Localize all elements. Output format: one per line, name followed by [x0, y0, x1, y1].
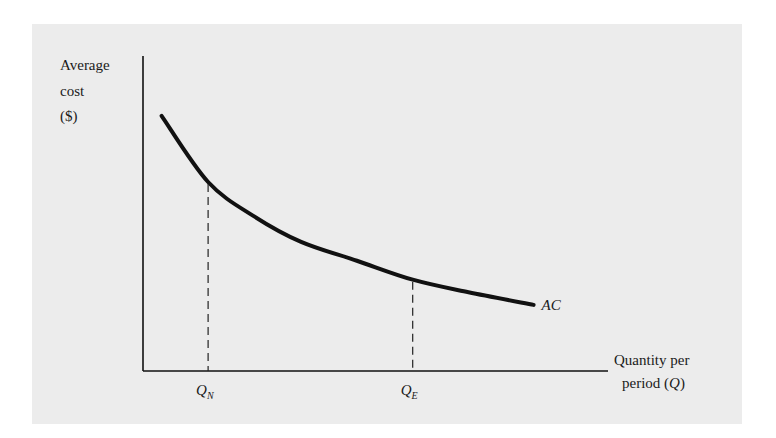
y-axis-label-line-1: Average: [60, 57, 110, 73]
q-e-label: QE: [401, 382, 418, 401]
y-axis-label-line-2: cost: [60, 83, 85, 99]
x-axis-label-line-1: Quantity per: [614, 352, 689, 368]
ac-curve-label: AC: [541, 297, 562, 313]
q-n-label: QN: [196, 382, 215, 401]
y-axis-label-line-3: ($): [60, 108, 78, 125]
x-axis-label-line-2: period (Q): [622, 375, 685, 392]
ac-curve: [162, 116, 534, 305]
average-cost-chart: Average cost ($) Quantity per period (Q)…: [0, 0, 776, 438]
